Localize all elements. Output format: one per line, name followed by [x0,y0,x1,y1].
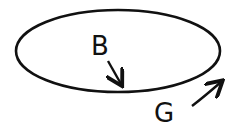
arrow-g-icon [192,82,221,106]
label-b: B [91,31,109,61]
label-g: G [154,98,174,127]
arrow-b-icon [108,61,121,84]
diagram-canvas: B G [0,0,235,127]
